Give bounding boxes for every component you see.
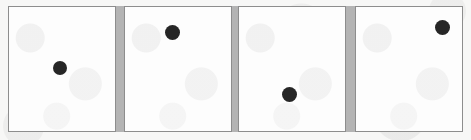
panel-divider-1	[116, 6, 124, 132]
dot-panel-4	[355, 6, 463, 132]
dot-marker-4	[435, 20, 450, 35]
dot-marker-3	[282, 87, 297, 102]
dot-panel-1	[8, 6, 116, 132]
dot-panel-3	[238, 6, 346, 132]
panel-3-texture	[239, 7, 345, 131]
dot-marker-1	[53, 61, 67, 75]
panel-divider-3	[346, 6, 355, 132]
dot-marker-2	[165, 25, 180, 40]
panel-2-texture	[125, 7, 231, 131]
dot-sequence-figure	[0, 0, 471, 140]
dot-panel-2	[124, 6, 232, 132]
